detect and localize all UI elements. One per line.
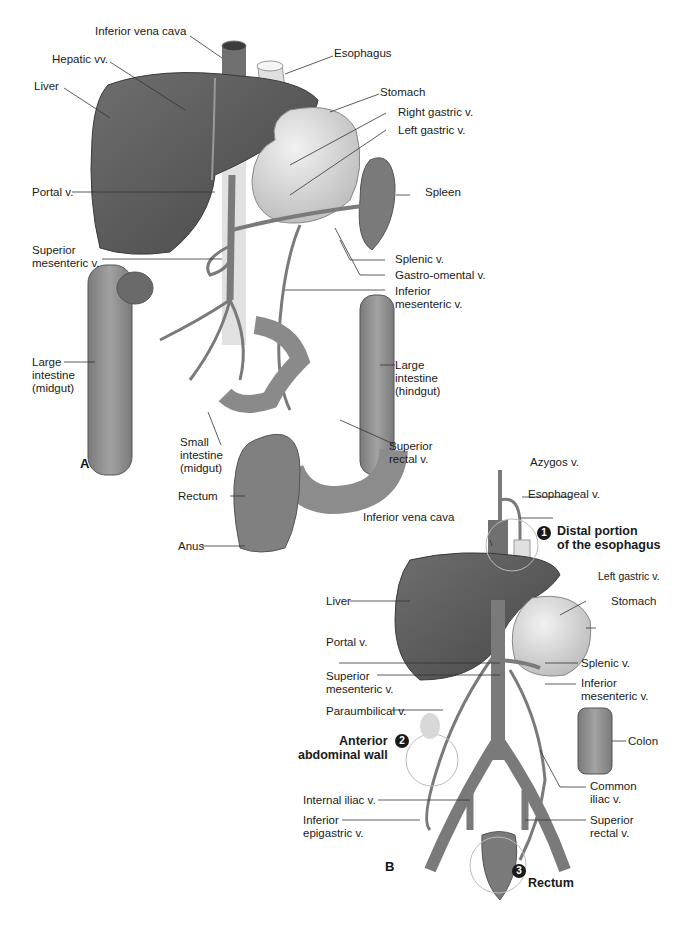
label-internal-iliac: Internal iliac v.	[303, 794, 376, 807]
label-paraumbilical: Paraumbilical v.	[326, 705, 406, 718]
label-esophagus-a: Esophagus	[334, 47, 392, 60]
label-portal-a: Portal v.	[32, 186, 73, 199]
label-large-intestine-midgut: Largeintestine(midgut)	[32, 356, 75, 395]
label-splenic-b: Splenic v.	[581, 657, 630, 670]
label-esophageal: Esophageal v.	[528, 488, 600, 501]
label-left-gastric-b: Left gastric v.	[598, 570, 660, 583]
label-left-gastric-a: Left gastric v.	[398, 124, 466, 137]
label-rectum-a: Rectum	[178, 490, 218, 503]
label-colon: Colon	[628, 735, 658, 748]
label-gastro-omental: Gastro-omental v.	[395, 269, 486, 282]
label-stomach-a: Stomach	[380, 86, 425, 99]
panel-letter-a: A	[80, 456, 89, 471]
label-liver-b: Liver	[326, 595, 351, 608]
portal-system-illustration	[0, 0, 686, 925]
label-site2-abdominal-wall: Anteriorabdominal wall	[298, 734, 388, 762]
label-hepatic-vv: Hepatic vv.	[52, 53, 108, 66]
label-sup-rectal-a: Superiorrectal v.	[389, 440, 432, 466]
label-inf-mes-b: Inferiormesenteric v.	[581, 677, 649, 703]
label-portal-b: Portal v.	[326, 636, 367, 649]
site-number-2: 2	[395, 734, 409, 748]
panel-a-art	[88, 41, 395, 552]
label-sup-rectal-b: Superiorrectal v.	[590, 814, 633, 840]
site-number-1: 1	[537, 526, 551, 540]
label-ivc-a: Inferior vena cava	[95, 25, 186, 38]
panel-letter-b: B	[385, 859, 394, 874]
label-site1-distal-esophagus: Distal portionof the esophagus	[557, 524, 660, 552]
label-large-intestine-hindgut: Largeintestine(hindgut)	[395, 359, 440, 398]
label-site3-rectum: Rectum	[528, 876, 574, 890]
label-inf-mes-a: Inferiormesenteric v.	[395, 285, 463, 311]
label-inf-epigastric: Inferiorepigastric v.	[303, 814, 364, 840]
label-azygos: Azygos v.	[530, 456, 579, 469]
colon-b	[578, 708, 612, 774]
label-anus: Anus	[178, 540, 204, 553]
label-ivc-b: Inferior vena cava	[363, 511, 454, 524]
label-spleen: Spleen	[425, 186, 461, 199]
label-sup-mes-a: Superiormesenteric v.	[32, 244, 100, 270]
label-stomach-b: Stomach	[611, 595, 656, 608]
label-liver-a: Liver	[34, 80, 59, 93]
site-number-3: 3	[512, 864, 526, 878]
label-common-iliac: Commoniliac v.	[590, 780, 637, 806]
label-splenic-a: Splenic v.	[395, 253, 444, 266]
label-small-intestine: Smallintestine(midgut)	[180, 436, 223, 475]
rectum-a	[234, 434, 300, 552]
label-right-gastric: Right gastric v.	[398, 106, 473, 119]
label-sup-mes-b: Superiormesenteric v.	[326, 670, 394, 696]
